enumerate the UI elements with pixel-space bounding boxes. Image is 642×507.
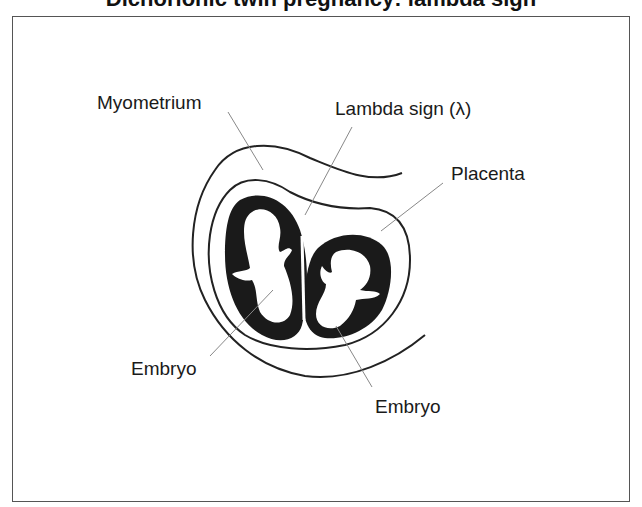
label-myometrium: Myometrium [97,92,202,114]
label-embryo-right: Embryo [375,396,440,418]
label-embryo-left: Embryo [131,358,196,380]
leader-myometrium [228,112,263,170]
label-placenta: Placenta [451,163,525,185]
label-lambda-sign: Lambda sign (λ) [335,98,471,120]
twin-pregnancy-diagram [0,0,642,507]
leader-embryo-right [336,326,372,387]
lambda-membrane [302,236,304,320]
leader-placenta [381,183,443,231]
